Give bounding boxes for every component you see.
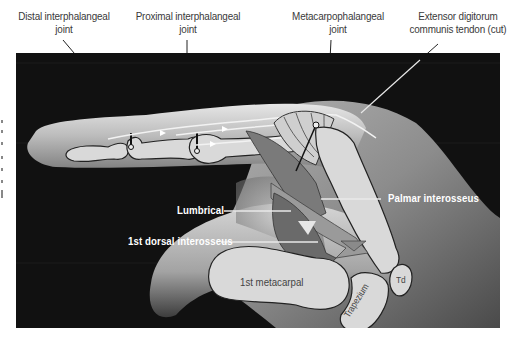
label-first-metacarpal: 1st metacarpal	[240, 276, 303, 288]
hand-photo-panel: Lumbrical 1st dorsal interosseus Palmar …	[16, 53, 500, 328]
label-trapezoid: Td	[396, 274, 406, 285]
label-palmar-interosseus: Palmar interosseus	[388, 192, 479, 204]
label-lumbrical: Lumbrical	[177, 204, 224, 216]
mcp-pin	[313, 122, 319, 128]
top-leader-lines	[0, 0, 513, 60]
page-edge-marks	[0, 120, 4, 200]
label-first-dorsal-interosseus: 1st dorsal interosseus	[128, 235, 233, 247]
